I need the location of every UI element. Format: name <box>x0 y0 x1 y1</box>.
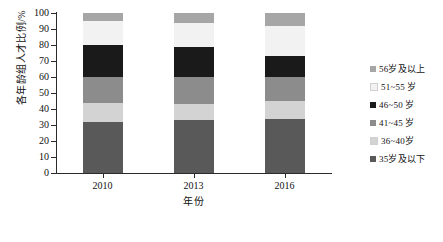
y-tick-mark <box>51 109 56 110</box>
y-tick-label: 70 <box>7 56 49 66</box>
x-axis-title: 年份 <box>57 196 330 208</box>
bar-segment-51~55 岁 <box>83 21 123 45</box>
x-tick-label-2010: 2010 <box>68 180 138 192</box>
y-tick-mark <box>51 77 56 78</box>
bar-2013 <box>174 13 214 173</box>
bar-segment-41~45 岁 <box>265 77 305 101</box>
y-tick-mark <box>51 13 56 14</box>
bar-segment-56岁及以上 <box>83 13 123 21</box>
bar-segment-56岁及以上 <box>265 13 305 26</box>
legend-item-0[interactable]: 56岁及以上 <box>370 60 443 78</box>
y-tick-label: 80 <box>7 40 49 50</box>
y-tick-label: 50 <box>7 88 49 98</box>
plot-area <box>57 13 330 173</box>
y-tick-label: 90 <box>7 24 49 34</box>
y-tick-label: 30 <box>7 120 49 130</box>
bar-segment-51~55 岁 <box>174 23 214 47</box>
bar-segment-36~40岁 <box>83 103 123 122</box>
y-tick-mark <box>51 157 56 158</box>
legend-label: 35岁及以下 <box>379 154 425 164</box>
y-tick-mark <box>51 141 56 142</box>
y-tick-mark <box>51 29 56 30</box>
y-tick-label: 100 <box>7 8 49 18</box>
bar-segment-36~40岁 <box>265 101 305 119</box>
y-tick-label: 20 <box>7 136 49 146</box>
x-tick-mark <box>194 174 195 178</box>
legend-swatch-icon <box>370 102 376 108</box>
y-tick-label: 40 <box>7 104 49 114</box>
y-tick-mark <box>51 173 56 174</box>
bar-segment-51~55 岁 <box>265 26 305 56</box>
legend-swatch-icon <box>370 120 376 126</box>
x-tick-label-2013: 2013 <box>159 180 229 192</box>
legend-item-4[interactable]: 36~40岁 <box>370 132 443 150</box>
bar-segment-41~45 岁 <box>174 77 214 104</box>
bar-segment-46~50 岁 <box>174 47 214 77</box>
bar-segment-46~50 岁 <box>83 45 123 77</box>
legend-swatch-icon <box>370 66 376 72</box>
bar-segment-46~50 岁 <box>265 56 305 77</box>
y-tick-label: 0 <box>7 168 49 178</box>
x-tick-mark <box>103 174 104 178</box>
legend-label: 41~45 岁 <box>379 118 415 128</box>
legend-swatch-icon <box>370 83 378 91</box>
legend-label: 46~50 岁 <box>379 100 415 110</box>
y-tick-mark <box>51 45 56 46</box>
legend-label: 56岁及以上 <box>379 64 425 74</box>
legend-item-5[interactable]: 35岁及以下 <box>370 150 443 168</box>
x-tick-label-2016: 2016 <box>250 180 320 192</box>
legend-swatch-icon <box>370 156 376 162</box>
bar-segment-36~40岁 <box>174 104 214 120</box>
chart-legend: 56岁及以上51~55 岁46~50 岁41~45 岁36~40岁35岁及以下 <box>370 60 443 168</box>
y-tick-mark <box>51 61 56 62</box>
stacked-bar-chart: 各年龄组人才比例/% 1009080706050403020100 201020… <box>0 0 443 242</box>
y-tick-label: 60 <box>7 72 49 82</box>
legend-item-3[interactable]: 41~45 岁 <box>370 114 443 132</box>
bar-2010 <box>83 13 123 173</box>
bar-2016 <box>265 13 305 173</box>
legend-label: 51~55 岁 <box>381 82 417 92</box>
legend-label: 36~40岁 <box>381 136 414 146</box>
bar-segment-35岁及以下 <box>83 122 123 173</box>
bar-segment-56岁及以上 <box>174 13 214 23</box>
legend-swatch-icon <box>370 137 378 145</box>
y-tick-mark <box>51 93 56 94</box>
bar-segment-35岁及以下 <box>174 120 214 173</box>
bar-segment-41~45 岁 <box>83 77 123 103</box>
y-tick-label: 10 <box>7 152 49 162</box>
legend-item-2[interactable]: 46~50 岁 <box>370 96 443 114</box>
y-tick-mark <box>51 125 56 126</box>
legend-item-1[interactable]: 51~55 岁 <box>370 78 443 96</box>
bar-segment-35岁及以下 <box>265 119 305 173</box>
x-tick-mark <box>285 174 286 178</box>
